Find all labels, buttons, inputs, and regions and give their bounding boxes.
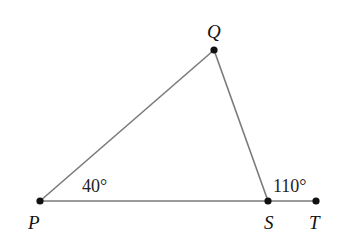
diagram-canvas: Q P S T 40° 110° — [0, 0, 337, 245]
segment-PQ — [40, 50, 214, 201]
point-S — [264, 197, 271, 204]
label-T: T — [309, 212, 321, 233]
segment-QS — [214, 50, 268, 201]
point-P — [36, 197, 43, 204]
label-S: S — [264, 212, 274, 233]
triangle-diagram: Q P S T 40° 110° — [0, 0, 337, 245]
angle-P-label: 40° — [82, 176, 107, 196]
label-Q: Q — [207, 21, 221, 42]
point-T — [312, 197, 319, 204]
label-P: P — [27, 212, 40, 233]
point-Q — [210, 46, 217, 53]
angle-exterior-S-label: 110° — [273, 176, 307, 196]
